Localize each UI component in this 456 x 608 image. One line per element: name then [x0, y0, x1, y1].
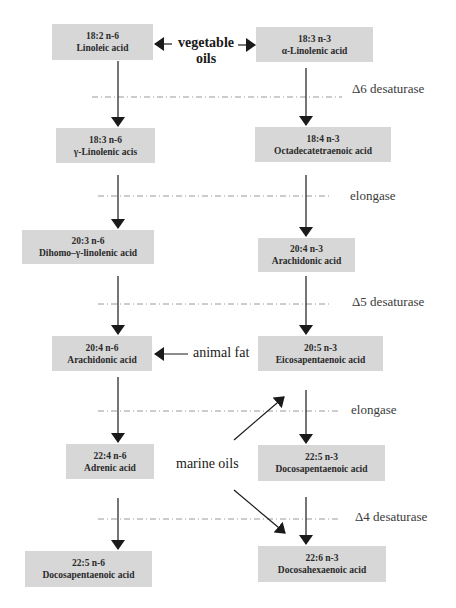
source-label-marine-oils: marine oils — [176, 456, 239, 472]
n3-name: Docosapentaenoic acid — [275, 463, 367, 475]
n6-formula: 22:5 n-6 — [72, 557, 105, 569]
n3-box-alpha-linolenic: 18:3 n-3 α-Linolenic acid — [256, 27, 373, 62]
n3-formula: 22:5 n-3 — [305, 451, 338, 463]
n3-formula: 18:3 n-3 — [298, 33, 331, 45]
n3-box-octadecatetraenoic: 18:4 n-3 Octadecatetraenoic acid — [255, 127, 391, 162]
n6-name: Linoleic acid — [77, 42, 129, 54]
vegetable-oils-line1: vegetable — [174, 35, 238, 51]
n3-name: Arachidonic acid — [272, 255, 341, 267]
n6-name: Arachidonic acid — [67, 354, 136, 366]
arrow-marine-oils-to-epa — [234, 397, 284, 440]
n3-box-docosapentaenoic: 22:5 n-3 Docosapentaenoic acid — [258, 445, 385, 481]
n6-box-adrenic: 22:4 n-6 Adrenic acid — [66, 444, 154, 479]
n3-name: Eicosapentaenoic acid — [276, 354, 365, 366]
n6-name: γ-Linolenic acis — [74, 146, 137, 158]
step-label-delta5: Δ5 desaturase — [352, 294, 424, 310]
n3-box-docosahexaenoic: 22:6 n-3 Docosahexaenoic acid — [258, 546, 386, 582]
n3-box-eicosapentaenoic: 20:5 n-3 Eicosapentaenoic acid — [258, 336, 383, 371]
n6-formula: 18:3 n-6 — [89, 134, 122, 146]
n3-formula: 18:4 n-3 — [307, 133, 340, 145]
source-label-vegetable-oils: vegetable oils — [174, 35, 238, 67]
n3-formula: 20:5 n-3 — [304, 342, 337, 354]
n6-box-gamma-linolenic: 18:3 n-6 γ-Linolenic acis — [56, 128, 155, 163]
n6-name: Adrenic acid — [84, 462, 136, 474]
n6-box-arachidonic: 20:4 n-6 Arachidonic acid — [52, 336, 152, 371]
n3-formula: 20:4 n-3 — [290, 243, 323, 255]
n6-formula: 20:4 n-6 — [86, 342, 119, 354]
n6-name: Dihomo–γ-linolenic acid — [39, 247, 137, 259]
arrow-marine-oils-to-dha — [234, 490, 285, 533]
n6-name: Docosapentaenoic acid — [42, 569, 134, 581]
n6-box-dihomo-gamma-linolenic: 20:3 n-6 Dihomo–γ-linolenic acid — [22, 230, 154, 264]
source-label-animal-fat: animal fat — [193, 345, 249, 361]
step-label-elongase-2: elongase — [351, 402, 396, 418]
n6-box-linoleic: 18:2 n-6 Linoleic acid — [52, 24, 153, 60]
n3-box-arachidonic: 20:4 n-3 Arachidonic acid — [258, 238, 355, 272]
n6-formula: 18:2 n-6 — [86, 30, 119, 42]
n6-formula: 20:3 n-6 — [72, 235, 105, 247]
n3-formula: 22:6 n-3 — [306, 552, 339, 564]
step-label-elongase-1: elongase — [350, 188, 395, 204]
fatty-acid-pathway-diagram: 18:2 n-6 Linoleic acid 18:3 n-6 γ-Linole… — [0, 0, 456, 608]
vegetable-oils-line2: oils — [174, 51, 238, 67]
step-label-delta4: Δ4 desaturase — [355, 509, 427, 525]
n6-box-docosapentaenoic: 22:5 n-6 Docosapentaenoic acid — [25, 551, 152, 587]
n6-formula: 22:4 n-6 — [94, 450, 127, 462]
n3-name: Docosahexaenoic acid — [278, 564, 366, 576]
n3-name: α-Linolenic acid — [282, 45, 348, 57]
step-label-delta6: Δ6 desaturase — [352, 81, 424, 97]
n3-name: Octadecatetraenoic acid — [274, 145, 372, 157]
